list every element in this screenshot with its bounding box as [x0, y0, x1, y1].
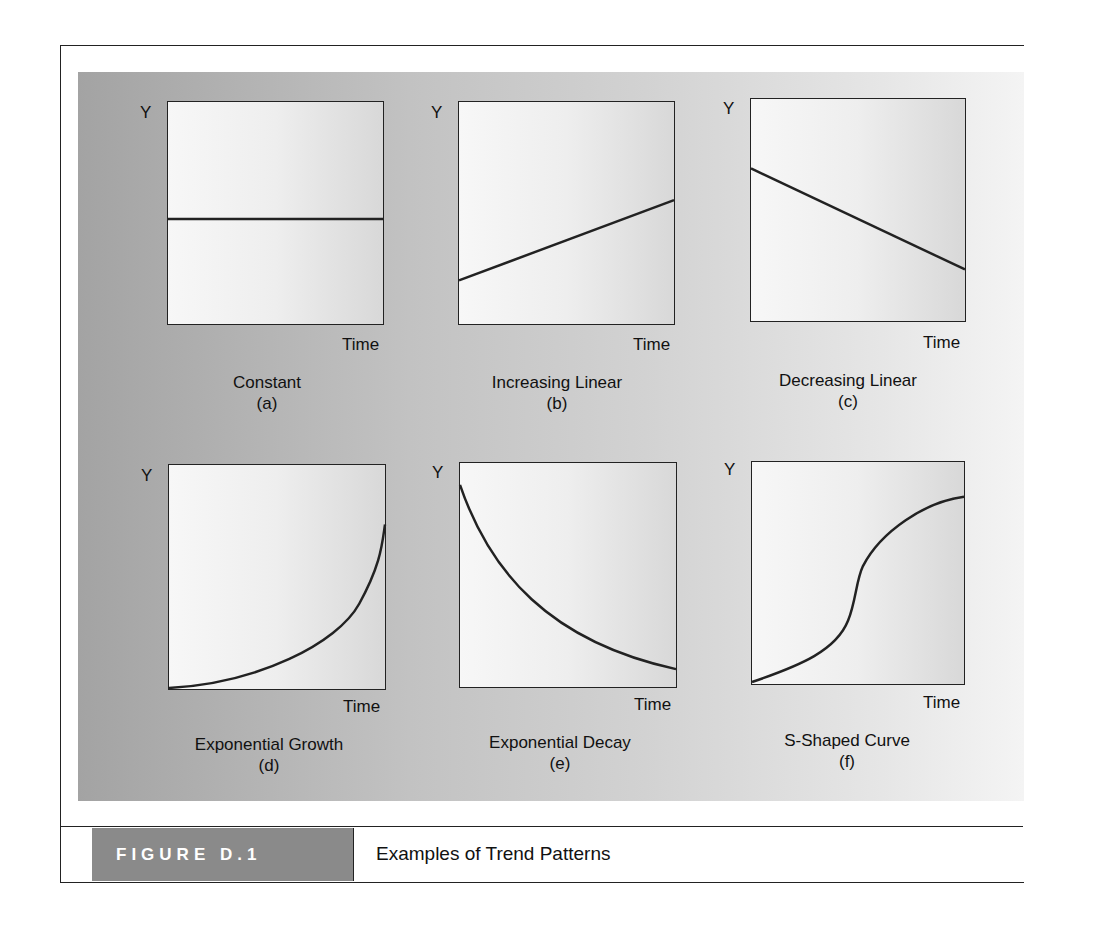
x-axis-label: Time	[342, 335, 379, 355]
panel-letter: (d)	[139, 755, 399, 776]
panel-title: Increasing Linear	[427, 372, 687, 393]
y-axis-label: Y	[431, 103, 442, 123]
plot-area	[751, 461, 965, 685]
decreasing-line	[751, 99, 965, 321]
panel-title: Decreasing Linear	[718, 370, 978, 391]
figure-title: Examples of Trend Patterns	[376, 843, 610, 865]
panel-caption: Decreasing Linear (c)	[718, 370, 978, 412]
s-shaped-curve	[752, 462, 964, 684]
panel-letter: (a)	[137, 393, 397, 414]
plot-area	[458, 101, 675, 325]
caption-divider	[353, 828, 354, 881]
x-axis-label: Time	[923, 693, 960, 713]
panel-title: Exponential Decay	[430, 732, 690, 753]
panel-caption: S-Shaped Curve (f)	[717, 730, 977, 772]
x-axis-label: Time	[343, 697, 380, 717]
panel-title: Constant	[137, 372, 397, 393]
exponential-decay-curve	[460, 463, 676, 687]
plot-area	[750, 98, 966, 322]
x-axis-label: Time	[923, 333, 960, 353]
panel-caption: Increasing Linear (b)	[427, 372, 687, 414]
y-axis-label: Y	[140, 103, 151, 123]
plot-area	[168, 464, 386, 690]
panel-letter: (c)	[718, 391, 978, 412]
panel-title: Exponential Growth	[139, 734, 399, 755]
y-axis-label: Y	[723, 99, 734, 119]
panel-caption: Exponential Decay (e)	[430, 732, 690, 774]
x-axis-label: Time	[633, 335, 670, 355]
plot-area	[459, 462, 677, 688]
increasing-line	[459, 102, 674, 324]
panel-letter: (e)	[430, 753, 690, 774]
x-axis-label: Time	[634, 695, 671, 715]
panel-letter: (f)	[717, 751, 977, 772]
panel-caption: Constant (a)	[137, 372, 397, 414]
panel-letter: (b)	[427, 393, 687, 414]
y-axis-label: Y	[141, 466, 152, 486]
constant-line	[168, 102, 383, 324]
panel-title: S-Shaped Curve	[717, 730, 977, 751]
panel-caption: Exponential Growth (d)	[139, 734, 399, 776]
exponential-growth-curve	[169, 465, 385, 689]
y-axis-label: Y	[724, 460, 735, 480]
y-axis-label: Y	[432, 463, 443, 483]
plot-area	[167, 101, 384, 325]
figure-number: FIGURE D.1	[92, 828, 353, 881]
